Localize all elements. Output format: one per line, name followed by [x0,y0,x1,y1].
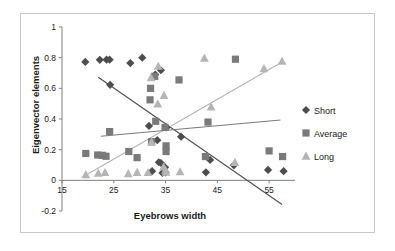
data-point-average [279,153,286,160]
data-point-average [82,150,89,157]
data-point-average [204,118,211,125]
data-point-long [231,158,240,166]
data-point-long [207,102,216,110]
x-axis-tick-label: 15 [57,185,67,195]
data-point-short [177,133,185,141]
data-point-long [160,91,169,99]
data-point-average [106,128,113,135]
y-axis-tick-label: 0.4 [44,114,56,124]
data-point-long [154,62,163,70]
data-point-long [278,57,287,65]
y-axis-tick-label: 0.2 [44,145,56,155]
trendline-short [98,77,282,204]
data-point-long [200,54,209,62]
legend-marker-long [302,152,311,160]
legend-label-average: Average [314,129,347,139]
data-point-short [280,167,288,175]
data-point-average [125,148,132,155]
y-axis-tick-label: -0.2 [41,206,56,216]
y-axis-tick-label: 1 [51,22,56,32]
data-point-average [162,148,169,155]
trendlines [85,62,282,205]
legend-marker-average [302,129,309,136]
data-point-average [147,85,154,92]
data-point-short [145,122,153,130]
data-point-short [126,59,134,67]
legend-label-long: Long [314,152,334,162]
data-point-short [138,54,146,62]
data-point-average [161,124,168,131]
data-point-short [81,58,89,66]
data-point-average [102,153,109,160]
data-point-short [202,168,210,176]
y-axis-tick-label: 0.8 [44,53,56,63]
legend-label-short: Short [314,106,336,116]
x-axis-tick-label: 25 [109,185,119,195]
x-axis: 1525354555 [57,180,295,195]
x-axis-title: Eyebrows width [134,210,207,221]
scatter-plot: -0.200.20.40.60.81 1525354555 ShortAvera… [0,0,395,251]
data-point-long [101,168,110,176]
data-point-average [175,76,182,83]
data-point-long [133,168,142,176]
y-axis-tick-label: 0.6 [44,83,56,93]
data-point-long [153,99,162,107]
data-point-average [202,153,209,160]
legend-marker-short [302,106,310,114]
data-point-long [124,169,133,177]
y-axis-title: Eigenvector elements [30,56,41,154]
data-point-long [260,64,269,72]
trendline-long [85,62,282,175]
data-point-average [266,147,273,154]
x-axis-tick-label: 45 [213,185,223,195]
y-axis-tick-label: 0 [51,175,56,185]
data-point-short [264,166,272,174]
data-point-average [152,118,159,125]
trendline-average [101,120,281,136]
chart-figure: -0.200.20.40.60.81 1525354555 ShortAvera… [0,0,395,251]
x-axis-tick-label: 35 [161,185,171,195]
data-point-average [133,154,140,161]
data-point-long [81,170,90,178]
data-point-average [232,56,239,63]
data-point-long [176,167,185,175]
chart-legend: ShortAverageLong [302,106,348,162]
data-point-average [146,96,153,103]
